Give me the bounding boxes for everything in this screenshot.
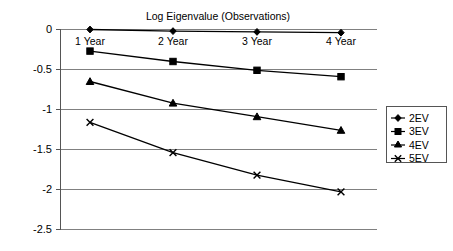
category-label-1-year: 1 Year [75,35,105,47]
category-label-2-year: 2 Year [158,35,188,47]
marker-square [338,74,344,80]
marker-square [87,48,93,54]
square-icon [395,129,401,135]
category-label-3-year: 3 Year [242,35,272,47]
y-axis-label-minus-0-5: -0.5 [33,63,52,75]
chart-title: Log Eigenvalue (Observations) [146,10,290,22]
legend-label-3ev: 3EV [409,125,429,137]
y-axis-label-minus-2: -2 [42,183,52,195]
y-axis-label-0: 0 [46,23,52,35]
legend-label-2ev: 2EV [409,112,429,124]
chart-container: 0 -0.5 -1 -1.5 -2 -2.5 Log Eigenvalue (O… [0,0,453,251]
y-axis-label-minus-2-5: -2.5 [33,223,52,235]
marker-square [170,58,176,64]
y-axis-label-minus-1: -1 [42,103,52,115]
chart-background [0,0,453,251]
log-eigenvalue-line-chart: 0 -0.5 -1 -1.5 -2 -2.5 Log Eigenvalue (O… [0,0,453,251]
y-axis-label-minus-1-5: -1.5 [33,143,52,155]
chart-legend: 2EV 3EV 4EV 5EV [387,107,447,165]
marker-square [254,67,260,73]
legend-label-4ev: 4EV [409,139,429,151]
category-label-4-year: 4 Year [326,35,356,47]
legend-label-5ev: 5EV [409,152,429,164]
